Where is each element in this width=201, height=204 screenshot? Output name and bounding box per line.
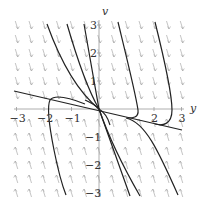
trajectory-lower-center — [99, 109, 140, 196]
tick-labels: −3−2−123321−1−2−3 — [10, 19, 186, 200]
x-tick-label: 2 — [151, 112, 158, 125]
trajectory-lower-right — [126, 118, 178, 195]
x-axis-label: y — [189, 102, 197, 115]
y-tick-label: −3 — [85, 187, 101, 200]
y-axis-label: v — [102, 5, 109, 18]
y-tick-label: 2 — [90, 47, 97, 60]
y-tick-label: −1 — [85, 131, 101, 144]
x-tick-label: −2 — [37, 112, 53, 125]
x-tick-label: −1 — [65, 112, 81, 125]
x-tick-label: 3 — [179, 112, 186, 125]
y-tick-label: −2 — [85, 159, 101, 172]
x-tick-label: −3 — [10, 112, 26, 125]
phase-portrait: −3−2−123321−1−2−3 y v — [0, 0, 201, 204]
y-tick-label: 3 — [90, 19, 97, 32]
y-tick-label: 1 — [90, 75, 97, 88]
